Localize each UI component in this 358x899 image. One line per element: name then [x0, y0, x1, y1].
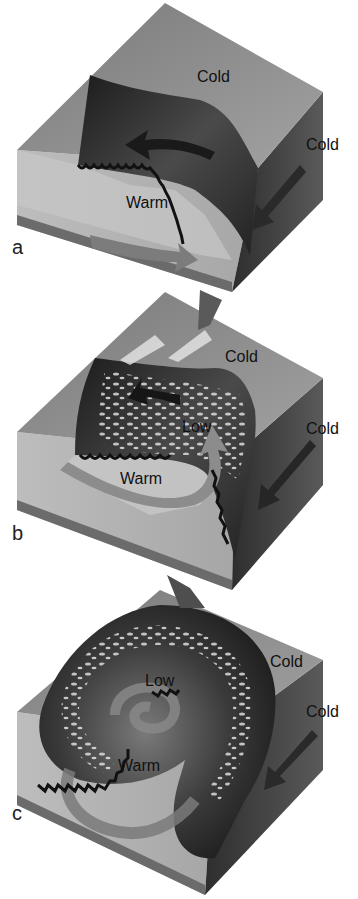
cyclone-diagram: Cold Cold Warm a Cold Cold Low Warm b [0, 0, 358, 899]
panel-letter-b: b [12, 522, 23, 544]
label-cold-top: Cold [270, 653, 303, 670]
label-warm: Warm [118, 757, 160, 774]
label-cold-side: Cold [306, 136, 339, 153]
label-warm: Warm [120, 470, 162, 487]
label-cold-side: Cold [306, 703, 339, 720]
label-warm: Warm [126, 194, 168, 211]
label-cold-top: Cold [197, 68, 230, 85]
label-cold-side: Cold [306, 420, 339, 437]
label-low: Low [182, 418, 212, 435]
label-cold-top: Cold [225, 348, 258, 365]
panel-a: Cold Cold Warm a [12, 3, 339, 292]
label-low: Low [145, 672, 175, 689]
panel-letter-a: a [12, 236, 24, 258]
panel-letter-c: c [12, 802, 22, 824]
panel-b: Cold Cold Low Warm b [12, 290, 339, 590]
panel-c: Cold Cold Low Warm c [12, 575, 339, 895]
